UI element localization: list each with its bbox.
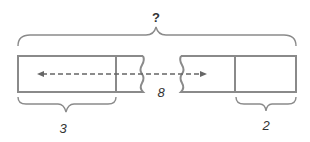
middle-label: 8 <box>157 85 164 100</box>
left-brace <box>18 97 116 112</box>
right-segment-label: 2 <box>262 118 269 133</box>
arrow-right-head-icon <box>200 71 207 77</box>
total-label: ? <box>152 10 160 25</box>
left-segment-label: 3 <box>59 121 66 136</box>
right-brace <box>236 97 296 111</box>
top-brace <box>18 27 296 46</box>
arrow-left-head-icon <box>37 71 44 77</box>
